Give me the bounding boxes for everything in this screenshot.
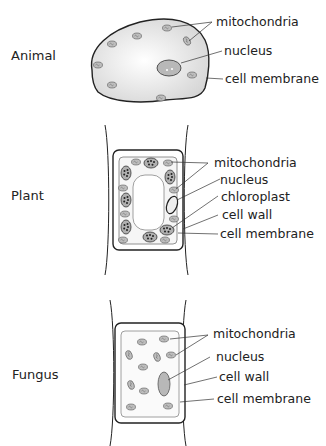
label-animal-cell-membrane: cell membrane — [225, 72, 319, 86]
label-fungus-cell-membrane: cell membrane — [217, 392, 311, 406]
panel-title-fungus: Fungus — [12, 367, 59, 382]
label-animal-mitochondria: mitochondria — [216, 15, 299, 29]
label-animal-nucleus: nucleus — [224, 44, 272, 58]
label-fungus-mitochondria: mitochondria — [213, 327, 296, 341]
label-plant-cell-wall: cell wall — [222, 208, 272, 222]
label-plant-mitochondria: mitochondria — [214, 156, 297, 170]
panel-title-plant: Plant — [11, 188, 44, 203]
panel-title-animal: Animal — [11, 48, 56, 63]
label-fungus-nucleus: nucleus — [216, 350, 264, 364]
label-fungus-cell-wall: cell wall — [219, 370, 269, 384]
animal-cell — [92, 19, 223, 102]
label-plant-chloroplast: chloroplast — [221, 190, 290, 204]
label-plant-cell-membrane: cell membrane — [220, 227, 314, 241]
fungus-cell — [110, 300, 217, 446]
plant-cell — [105, 125, 220, 275]
label-plant-nucleus: nucleus — [220, 173, 268, 187]
